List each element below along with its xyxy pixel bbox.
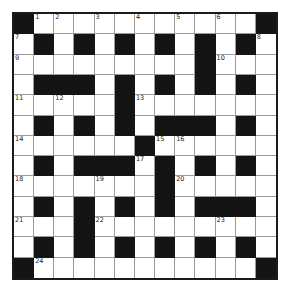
answer-cell[interactable]: 10	[216, 55, 236, 75]
answer-cell[interactable]	[135, 237, 155, 257]
answer-cell[interactable]	[175, 34, 195, 54]
answer-cell[interactable]	[155, 14, 175, 34]
answer-cell[interactable]	[155, 217, 175, 237]
answer-cell[interactable]	[236, 55, 256, 75]
answer-cell[interactable]	[256, 116, 276, 136]
answer-cell[interactable]: 14	[14, 136, 34, 156]
answer-cell[interactable]	[256, 136, 276, 156]
answer-cell[interactable]: 5	[175, 14, 195, 34]
answer-cell[interactable]	[135, 55, 155, 75]
answer-cell[interactable]	[195, 217, 215, 237]
answer-cell[interactable]	[195, 136, 215, 156]
answer-cell[interactable]	[54, 217, 74, 237]
answer-cell[interactable]: 11	[14, 95, 34, 115]
answer-cell[interactable]	[135, 116, 155, 136]
answer-cell[interactable]	[195, 258, 215, 278]
answer-cell[interactable]	[74, 14, 94, 34]
answer-cell[interactable]	[74, 95, 94, 115]
answer-cell[interactable]	[135, 217, 155, 237]
answer-cell[interactable]	[155, 258, 175, 278]
answer-cell[interactable]	[216, 116, 236, 136]
answer-cell[interactable]	[216, 95, 236, 115]
answer-cell[interactable]	[195, 176, 215, 196]
answer-cell[interactable]	[14, 156, 34, 176]
answer-cell[interactable]	[216, 156, 236, 176]
answer-cell[interactable]: 6	[216, 14, 236, 34]
answer-cell[interactable]	[216, 75, 236, 95]
answer-cell[interactable]	[175, 217, 195, 237]
answer-cell[interactable]: 7	[14, 34, 34, 54]
answer-cell[interactable]	[216, 258, 236, 278]
answer-cell[interactable]: 9	[14, 55, 34, 75]
answer-cell[interactable]	[34, 217, 54, 237]
answer-cell[interactable]	[236, 217, 256, 237]
answer-cell[interactable]: 1	[34, 14, 54, 34]
answer-cell[interactable]	[175, 95, 195, 115]
answer-cell[interactable]	[256, 156, 276, 176]
answer-cell[interactable]: 16	[175, 136, 195, 156]
answer-cell[interactable]	[155, 55, 175, 75]
answer-cell[interactable]	[34, 176, 54, 196]
answer-cell[interactable]	[95, 116, 115, 136]
answer-cell[interactable]	[74, 176, 94, 196]
answer-cell[interactable]	[54, 258, 74, 278]
answer-cell[interactable]	[74, 136, 94, 156]
answer-cell[interactable]	[115, 217, 135, 237]
answer-cell[interactable]: 24	[34, 258, 54, 278]
answer-cell[interactable]	[216, 136, 236, 156]
answer-cell[interactable]: 3	[95, 14, 115, 34]
answer-cell[interactable]: 20	[175, 176, 195, 196]
answer-cell[interactable]	[256, 197, 276, 217]
answer-cell[interactable]	[54, 116, 74, 136]
answer-cell[interactable]	[155, 95, 175, 115]
answer-cell[interactable]	[74, 55, 94, 75]
answer-cell[interactable]	[236, 95, 256, 115]
answer-cell[interactable]: 18	[14, 176, 34, 196]
answer-cell[interactable]: 8	[256, 34, 276, 54]
answer-cell[interactable]	[256, 75, 276, 95]
answer-cell[interactable]: 4	[135, 14, 155, 34]
answer-cell[interactable]	[34, 55, 54, 75]
answer-cell[interactable]: 23	[216, 217, 236, 237]
answer-cell[interactable]	[14, 116, 34, 136]
answer-cell[interactable]	[236, 136, 256, 156]
answer-cell[interactable]	[115, 176, 135, 196]
answer-cell[interactable]	[14, 197, 34, 217]
answer-cell[interactable]: 12	[54, 95, 74, 115]
answer-cell[interactable]	[54, 237, 74, 257]
answer-cell[interactable]	[95, 75, 115, 95]
answer-cell[interactable]	[236, 14, 256, 34]
answer-cell[interactable]	[74, 258, 94, 278]
answer-cell[interactable]	[54, 34, 74, 54]
answer-cell[interactable]	[135, 197, 155, 217]
answer-cell[interactable]	[54, 156, 74, 176]
answer-cell[interactable]	[54, 176, 74, 196]
answer-cell[interactable]: 19	[95, 176, 115, 196]
answer-cell[interactable]	[256, 95, 276, 115]
answer-cell[interactable]	[54, 197, 74, 217]
answer-cell[interactable]	[256, 55, 276, 75]
answer-cell[interactable]	[95, 95, 115, 115]
answer-cell[interactable]	[135, 258, 155, 278]
answer-cell[interactable]	[195, 95, 215, 115]
answer-cell[interactable]: 17	[135, 156, 155, 176]
answer-cell[interactable]: 21	[14, 217, 34, 237]
answer-cell[interactable]	[115, 136, 135, 156]
answer-cell[interactable]	[54, 136, 74, 156]
answer-cell[interactable]	[95, 258, 115, 278]
answer-cell[interactable]: 15	[155, 136, 175, 156]
answer-cell[interactable]	[175, 258, 195, 278]
answer-cell[interactable]: 13	[135, 95, 155, 115]
answer-cell[interactable]	[95, 197, 115, 217]
answer-cell[interactable]	[34, 95, 54, 115]
answer-cell[interactable]	[175, 156, 195, 176]
answer-cell[interactable]	[135, 176, 155, 196]
answer-cell[interactable]	[175, 75, 195, 95]
answer-cell[interactable]	[34, 136, 54, 156]
answer-cell[interactable]	[216, 34, 236, 54]
answer-cell[interactable]	[236, 258, 256, 278]
answer-cell[interactable]	[95, 136, 115, 156]
answer-cell[interactable]: 2	[54, 14, 74, 34]
answer-cell[interactable]	[175, 237, 195, 257]
answer-cell[interactable]: 22	[95, 217, 115, 237]
